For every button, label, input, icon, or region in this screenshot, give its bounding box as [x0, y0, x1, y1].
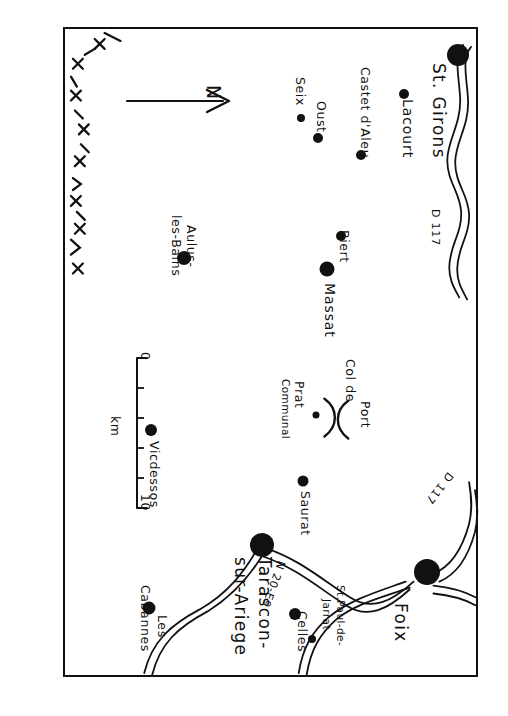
label-celles: Celles	[296, 611, 309, 652]
label-cabannes: Cabannes	[139, 585, 152, 652]
label-st-paul-line2: Jarrat	[322, 599, 333, 630]
label-communal: Communal	[281, 379, 292, 439]
scale-label-unit: km	[108, 416, 123, 436]
town-dot-st-girons[interactable]	[447, 44, 469, 66]
label-col-de-port-line1: Col de	[344, 359, 357, 402]
town-dot-oust[interactable]	[313, 133, 323, 143]
town-dot-foix[interactable]	[414, 559, 440, 585]
sketch-map-page: St. Girons to Tarascon-sur-Ariege.	[0, 0, 508, 716]
label-foix: Foix	[392, 603, 409, 643]
map-frame: St. Girons Lacourt Castet d'Aleu Seix Ou…	[63, 27, 478, 677]
label-aulus-line2: les-Bains	[170, 215, 183, 276]
town-dot-seix[interactable]	[297, 114, 305, 122]
label-road-d117-north: D 117	[430, 209, 441, 246]
town-dot-tarascon-sur-ariege[interactable]	[250, 533, 274, 557]
road-d117-north	[447, 45, 471, 299]
frontier-border-line	[71, 33, 121, 274]
map-canvas: St. Girons Lacourt Castet d'Aleu Seix Ou…	[65, 29, 476, 675]
label-saurat: Saurat	[299, 491, 312, 536]
label-tarascon-line2: sur-Ariege	[232, 557, 249, 656]
label-biert: Biert	[338, 230, 351, 263]
label-st-paul-line1: St.Paul-de-	[336, 585, 347, 646]
label-castet-daleu: Castet d'Aleu	[359, 67, 372, 158]
label-prat: Prat	[293, 381, 306, 408]
scale-label-zero: 0	[138, 352, 153, 360]
label-les: Les	[156, 615, 169, 638]
town-dot-prat-communal[interactable]	[312, 412, 319, 419]
col-de-port-symbol	[324, 399, 348, 439]
north-arrow-label: N	[203, 85, 225, 100]
road-d117-south	[433, 482, 477, 605]
label-aulus-line1: Aulus-	[185, 225, 198, 268]
label-col-de-port-line2: Port	[359, 401, 372, 428]
label-massat: Massat	[323, 283, 337, 338]
label-seix: Seix	[294, 77, 307, 106]
label-oust: Oust	[315, 101, 328, 133]
town-dot-saurat[interactable]	[297, 476, 308, 487]
scale-label-ten: 10	[138, 494, 153, 511]
label-st-girons: St. Girons	[430, 63, 447, 159]
town-dot-lacourt[interactable]	[399, 89, 409, 99]
label-lacourt: Lacourt	[401, 99, 415, 158]
town-dot-massat[interactable]	[320, 262, 335, 277]
scale-bar: 0 10 km	[103, 354, 161, 514]
